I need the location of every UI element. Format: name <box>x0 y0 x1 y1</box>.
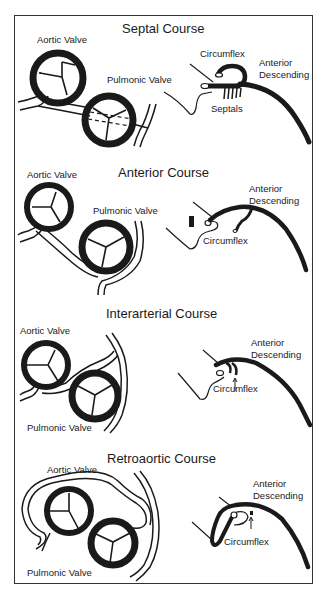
circumflex-label: Circumflex <box>203 235 248 246</box>
pulmonic-valve-icon <box>82 223 130 271</box>
aortic-valve-label: Aortic Valve <box>20 325 70 336</box>
aortic-valve-label: Aortic Valve <box>37 34 87 45</box>
panel-title: Interarterial Course <box>106 306 217 321</box>
pulmonic-valve-icon <box>72 373 118 419</box>
aortic-valve-label: Aortic Valve <box>47 464 97 475</box>
septal-marker <box>189 216 194 227</box>
pulmonic-valve-icon <box>85 96 133 144</box>
circumflex-vessel <box>236 207 252 231</box>
aortic-valve-icon <box>27 185 71 229</box>
anterior-descending-label-line1: Anterior <box>251 337 284 348</box>
pulmonic-valve-label: Pulmonic Valve <box>93 205 158 216</box>
panel-title: Anterior Course <box>118 165 209 180</box>
pulmonic-valve-label: Pulmonic Valve <box>107 74 172 85</box>
aortic-valve-icon <box>24 343 68 387</box>
panel-title: Septal Course <box>122 21 204 36</box>
circumflex-label: Circumflex <box>200 48 245 59</box>
aortic-valve-icon <box>47 489 91 533</box>
panel-title: Retroaortic Course <box>107 451 216 466</box>
aortic-valve-icon <box>33 53 83 103</box>
pointer-line <box>190 64 213 82</box>
anterior-descending-label-line2: Descending <box>251 349 301 360</box>
anterior-descending-label-line2: Descending <box>253 490 303 501</box>
arrow-up-icon <box>249 517 253 529</box>
anterior-descending-vessel <box>240 84 309 142</box>
pulmonic-valve-icon <box>91 521 135 565</box>
panel-anterior-course: Anterior Course Aortic Valve Pulmonic Va… <box>0 145 327 290</box>
panel-interarterial-course: Interarterial Course Aortic Valve Pulmon… <box>0 295 327 440</box>
aortic-valve-label: Aortic Valve <box>27 169 77 180</box>
pulmonic-valve-label: Pulmonic Valve <box>27 567 92 578</box>
circumflex-label: Circumflex <box>213 383 258 394</box>
anterior-descending-label-line1: Anterior <box>249 183 282 194</box>
anterior-descending-label-line1: Anterior <box>259 57 292 68</box>
circumflex-label: Circumflex <box>224 536 269 547</box>
pointer-line-lower <box>192 522 212 540</box>
anterior-descending-label-line1: Anterior <box>253 478 286 489</box>
anterior-descending-label-line2: Descending <box>249 195 299 206</box>
anterior-descending-label-line2: Descending <box>259 69 309 80</box>
pulmonic-valve-label: Pulmonic Valve <box>27 422 92 433</box>
panel-retroaortic-course: Retroaortic Course Aortic Valve Pulmonic… <box>0 445 327 590</box>
pointer-line <box>193 202 212 217</box>
septal-outline-line <box>164 92 212 114</box>
septal-branches <box>224 88 241 99</box>
panel-septal-course: Septal Course Aortic Valve Pulmonic Valv… <box>0 0 327 145</box>
circumflex-vessel <box>226 363 237 375</box>
pointer-line <box>203 350 218 363</box>
septals-label: Septals <box>211 103 243 114</box>
